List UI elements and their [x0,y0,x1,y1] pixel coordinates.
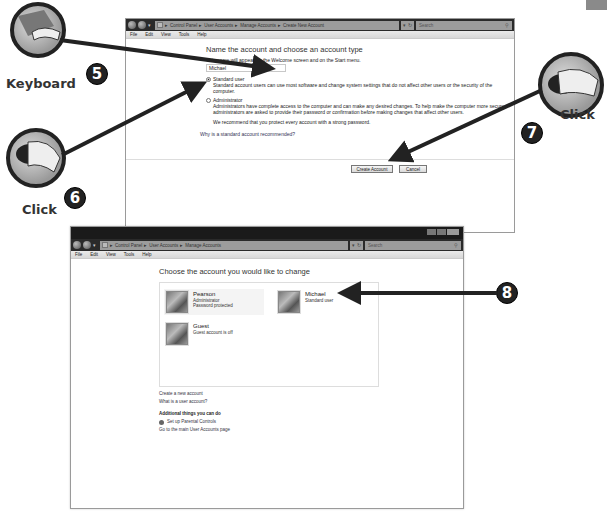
breadcrumb-item[interactable]: User Accounts [149,243,178,248]
forward-button[interactable] [83,241,91,249]
search-icon: ⚲ [454,243,458,248]
create-account-button[interactable]: Create Account [351,165,393,173]
breadcrumb-item[interactable]: User Accounts [204,23,233,28]
callout-label: Keyboard [6,76,76,91]
accounts-list: Pearson Administrator Password protected… [159,282,379,387]
main-user-accounts-link[interactable]: Go to the main User Accounts page [159,426,379,434]
create-account-window: ▾ ▸ Control Panel ▸ User Accounts ▸ Mana… [125,18,515,233]
address-dropdown-icon[interactable]: ▾ [403,23,406,28]
menu-view[interactable]: View [106,252,116,257]
search-icon: ⚲ [505,23,509,28]
address-bar: ▾ ▸ Control Panel ▸ User Accounts ▸ Mana… [71,239,463,251]
password-recommendation: We recommend that you protect every acco… [206,119,514,125]
administrator-description: Administrators have complete access to t… [206,103,506,115]
refresh-icon[interactable]: ↻ [357,243,361,248]
keyboard-icon [10,2,66,58]
menu-edit[interactable]: Edit [145,32,153,37]
control-panel-icon [157,22,163,28]
menu-tools[interactable]: Tools [124,252,135,257]
maximize-button[interactable] [437,229,446,235]
address-bar: ▾ ▸ Control Panel ▸ User Accounts ▸ Mana… [126,19,514,31]
refresh-icon[interactable]: ↻ [408,23,412,28]
divider [126,159,514,160]
step-badge: 5 [86,63,108,85]
cancel-button[interactable]: Cancel [399,165,427,173]
button-row: Create Account Cancel [351,165,427,173]
menu-help[interactable]: Help [197,32,206,37]
create-account-form: Name the account and choose an account t… [126,39,514,137]
administrator-radio[interactable] [206,98,211,103]
manage-accounts-window: ▾ ▸ Control Panel ▸ User Accounts ▸ Mana… [70,226,464,509]
account-picture [166,323,188,345]
page-title: Name the account and choose an account t… [206,47,514,53]
breadcrumb-item[interactable]: Manage Accounts [240,23,276,28]
breadcrumb-item[interactable]: Control Panel [170,23,197,28]
menu-edit[interactable]: Edit [90,252,98,257]
parental-controls-icon [159,420,164,425]
menu-file[interactable]: File [130,32,137,37]
address-dropdown-icon[interactable]: ▾ [352,243,355,248]
what-is-user-account-link[interactable]: What is a user account? [159,398,379,406]
standard-user-radio[interactable] [206,77,211,82]
account-picture [166,291,188,313]
account-tile-guest[interactable]: Guest Guest account is off [166,323,233,345]
callout-label: Click [560,107,595,122]
breadcrumb-item[interactable]: Control Panel [115,243,142,248]
search-input[interactable]: Search ⚲ [365,241,461,250]
step-badge: 7 [521,122,543,144]
mouse-click-icon [6,128,66,188]
menu-view[interactable]: View [161,32,171,37]
create-new-account-link[interactable]: Create a new account [159,390,379,398]
additional-things-heading: Additional things you can do [159,410,379,418]
breadcrumb-item[interactable]: Create New Account [283,23,324,28]
callout-label: Click [22,202,57,217]
search-input[interactable]: Search ⚲ [416,21,512,30]
name-hint: This name will appear on the Welcome scr… [206,57,514,63]
page-title: Choose the account you would like to cha… [159,267,379,276]
menu-help[interactable]: Help [142,252,151,257]
breadcrumb-item[interactable]: Manage Accounts [185,243,221,248]
menu-file[interactable]: File [75,252,82,257]
account-tile-pearson[interactable]: Pearson Administrator Password protected [164,289,264,315]
menu-bar: File Edit View Tools Help [71,251,463,259]
menu-tools[interactable]: Tools [179,32,190,37]
step-badge: 8 [496,282,518,304]
close-button[interactable] [447,229,459,235]
title-bar [71,227,463,239]
control-panel-icon [102,242,108,248]
standard-user-description: Standard account users can use most soft… [206,82,506,94]
account-picture [278,291,300,313]
minimize-button[interactable] [427,229,436,235]
back-button[interactable] [128,21,136,29]
breadcrumb[interactable]: ▸ Control Panel ▸ User Accounts ▸ Manage… [100,241,348,250]
back-button[interactable] [73,241,81,249]
account-name-input[interactable]: Michael [206,64,286,72]
parental-controls-link[interactable]: Set up Parental Controls [159,418,379,426]
forward-button[interactable] [138,21,146,29]
menu-bar: File Edit View Tools Help [126,31,514,39]
breadcrumb[interactable]: ▸ Control Panel ▸ User Accounts ▸ Manage… [155,21,399,30]
why-standard-link[interactable]: Why is a standard account recommended? [200,131,514,137]
account-tile-michael[interactable]: Michael Standard user [278,291,333,313]
history-dropdown-icon[interactable]: ▾ [93,241,98,249]
page-corner-tab [586,0,607,10]
manage-accounts-content: Choose the account you would like to cha… [159,267,379,434]
history-dropdown-icon[interactable]: ▾ [148,21,153,29]
step-badge: 6 [64,187,86,209]
